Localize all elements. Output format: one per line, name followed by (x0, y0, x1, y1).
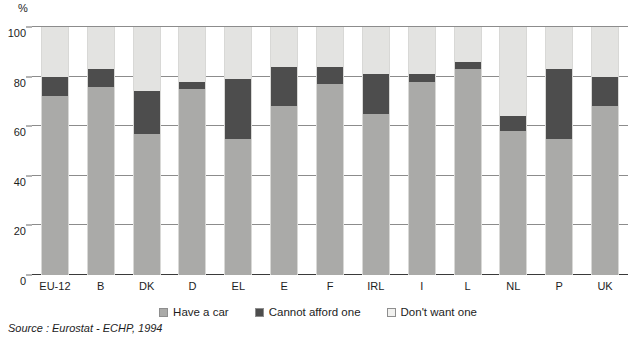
bar-segment-cannot-afford-one (41, 77, 69, 97)
bar-segment-dont-want-one (454, 27, 482, 62)
x-tick-label-el: EL (216, 280, 260, 292)
bar-segment-dont-want-one (270, 27, 298, 67)
bar-segment-have-a-car (316, 84, 344, 275)
y-tick-mark-20 (26, 225, 32, 226)
y-axis-tick-labels: 020406080100 (0, 27, 26, 275)
legend-label: Don't want one (401, 306, 477, 318)
y-tick-mark-40 (26, 175, 32, 176)
bar-segment-dont-want-one (499, 27, 527, 116)
bar-segment-cannot-afford-one (87, 69, 115, 86)
x-tick-label-eu-12: EU-12 (33, 280, 77, 292)
x-tick-label-d: D (170, 280, 214, 292)
bar-segment-cannot-afford-one (545, 69, 573, 138)
y-tick-mark-100 (26, 27, 32, 28)
bar-segment-dont-want-one (408, 27, 436, 74)
bar-group-b[interactable] (87, 27, 115, 275)
bar-segment-cannot-afford-one (270, 67, 298, 107)
legend-item-dont[interactable]: Don't want one (387, 306, 477, 318)
x-axis-tick-labels: EU-12BDKDELEFIRLILNLPUK (32, 280, 628, 298)
bar-segment-cannot-afford-one (408, 74, 436, 81)
bar-segment-cannot-afford-one (499, 116, 527, 131)
chart-figure: % 020406080100 EU-12BDKDELEFIRLILNLPUK H… (0, 0, 636, 338)
bar-group-dk[interactable] (133, 27, 161, 275)
bar-segment-have-a-car (41, 96, 69, 275)
legend-swatch-icon-cannot (255, 308, 264, 317)
bar-segment-dont-want-one (41, 27, 69, 77)
bar-group-i[interactable] (408, 27, 436, 275)
bar-segment-have-a-car (178, 89, 206, 275)
bar-segment-cannot-afford-one (224, 79, 252, 139)
y-axis-unit-label: % (18, 2, 28, 14)
bar-segment-cannot-afford-one (316, 67, 344, 84)
x-tick-label-b: B (79, 280, 123, 292)
source-note: Source : Eurostat - ECHP, 1994 (8, 322, 163, 334)
bar-segment-dont-want-one (224, 27, 252, 79)
x-tick-label-p: P (537, 280, 581, 292)
bar-segment-have-a-car (591, 106, 619, 275)
x-tick-label-e: E (262, 280, 306, 292)
y-tick-mark-60 (26, 126, 32, 127)
bar-segment-have-a-car (362, 114, 390, 275)
bar-segment-dont-want-one (178, 27, 206, 82)
bar-segment-dont-want-one (133, 27, 161, 91)
chart-legend: Have a carCannot afford oneDon't want on… (0, 303, 636, 321)
bar-segment-dont-want-one (87, 27, 115, 69)
x-tick-label-dk: DK (125, 280, 169, 292)
bar-segment-have-a-car (545, 139, 573, 275)
legend-label: Cannot afford one (269, 306, 361, 318)
y-tick-mark-0 (26, 275, 32, 276)
bar-segment-have-a-car (408, 82, 436, 275)
legend-swatch-icon-dont (387, 308, 396, 317)
bar-segment-cannot-afford-one (591, 77, 619, 107)
bar-segment-have-a-car (270, 106, 298, 275)
plot-area (32, 27, 628, 275)
bar-group-f[interactable] (316, 27, 344, 275)
bar-segment-cannot-afford-one (362, 74, 390, 114)
bar-group-d[interactable] (178, 27, 206, 275)
bar-segment-dont-want-one (545, 27, 573, 69)
bar-segment-cannot-afford-one (133, 91, 161, 133)
bar-group-p[interactable] (545, 27, 573, 275)
x-tick-label-f: F (308, 280, 352, 292)
x-tick-label-irl: IRL (354, 280, 398, 292)
bar-segment-have-a-car (499, 131, 527, 275)
bar-group-irl[interactable] (362, 27, 390, 275)
legend-swatch-icon-have (159, 308, 168, 317)
bar-segment-have-a-car (133, 134, 161, 275)
bar-segment-have-a-car (454, 69, 482, 275)
bar-segment-dont-want-one (316, 27, 344, 67)
bar-segment-cannot-afford-one (178, 82, 206, 89)
legend-label: Have a car (173, 306, 229, 318)
bar-segment-have-a-car (87, 87, 115, 275)
bar-group-uk[interactable] (591, 27, 619, 275)
bar-group-l[interactable] (454, 27, 482, 275)
bar-group-eu-12[interactable] (41, 27, 69, 275)
y-tick-mark-80 (26, 76, 32, 77)
bar-group-el[interactable] (224, 27, 252, 275)
x-tick-label-uk: UK (583, 280, 627, 292)
bar-group-nl[interactable] (499, 27, 527, 275)
bar-segment-dont-want-one (362, 27, 390, 74)
legend-item-have[interactable]: Have a car (159, 306, 229, 318)
x-tick-label-l: L (446, 280, 490, 292)
bar-segment-cannot-afford-one (454, 62, 482, 69)
bar-segment-dont-want-one (591, 27, 619, 77)
bar-group-e[interactable] (270, 27, 298, 275)
bar-segment-have-a-car (224, 139, 252, 275)
legend-item-cannot[interactable]: Cannot afford one (255, 306, 361, 318)
x-tick-label-nl: NL (491, 280, 535, 292)
x-tick-label-i: I (400, 280, 444, 292)
